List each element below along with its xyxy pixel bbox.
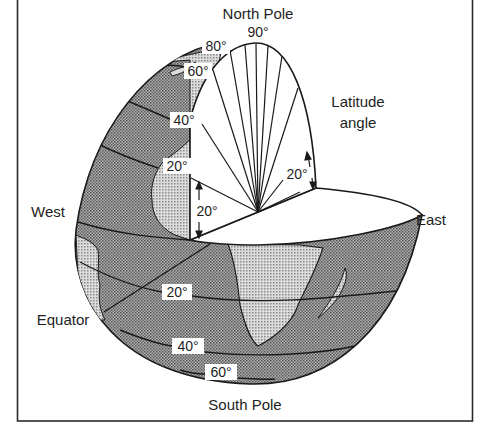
latitude-label-40n: 40° xyxy=(173,112,194,128)
latitude-diagram: North Pole 90° 80° 60° 40° 20° 20° 20° L… xyxy=(0,0,480,434)
latitude-label-80n: 80° xyxy=(205,38,226,54)
latitude-label-40s: 40° xyxy=(177,338,198,354)
latitude-label-20n: 20° xyxy=(166,158,187,174)
angle-label-left: 20° xyxy=(196,203,217,219)
latitude-label-60s: 60° xyxy=(210,364,231,380)
latitude-label-60n: 60° xyxy=(187,63,208,79)
west-label: West xyxy=(31,203,66,220)
east-label: East xyxy=(416,211,447,228)
latitude-label-20s: 20° xyxy=(166,284,187,300)
latitude-angle-label-line1: Latitude xyxy=(331,93,384,110)
latitude-angle-label-line2: angle xyxy=(340,114,377,131)
south-pole-label: South Pole xyxy=(208,396,281,413)
equator-label: Equator xyxy=(37,311,90,328)
north-pole-label: North Pole xyxy=(223,5,294,22)
north-pole-angle-label: 90° xyxy=(247,24,268,40)
angle-label-right: 20° xyxy=(286,166,307,182)
